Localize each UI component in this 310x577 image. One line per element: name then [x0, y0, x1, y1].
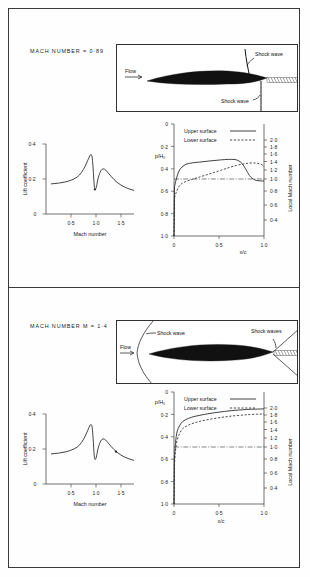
- p-ytick-0.4-supersonic: 0·4: [161, 434, 168, 440]
- p-ytick-0.6-transonic: 0·6: [161, 188, 168, 194]
- lift-yaxis-label-supersonic: Lift coefficient: [22, 432, 28, 465]
- lower-surface-curve-transonic: [174, 163, 264, 236]
- m-tick-1.2-supersonic: 1·2: [270, 435, 277, 441]
- panel-transonic: MACH NUMBER = 0·89: [0, 8, 310, 287]
- trailing-shock-lower-line: [273, 354, 298, 377]
- lift-xtick-1.5-transonic: 1·5: [117, 220, 124, 226]
- shock-waves-lower-label: Shock waves: [251, 328, 282, 334]
- m-tick-0.6-transonic: 0·6: [270, 202, 277, 208]
- legend-transonic: Upper surface Lower surface: [184, 128, 256, 143]
- m-tick-1.6-supersonic: 1·6: [270, 419, 277, 425]
- shock-wave-lower-label: Shock wave: [221, 98, 249, 104]
- lower-surface-curve-supersonic: [174, 414, 264, 504]
- upper-surface-curve-transonic: [174, 159, 264, 236]
- flow-diagram-svg-supersonic: Flow Shock wave Shock waves: [117, 321, 298, 384]
- pressure-right-ticks-supersonic: [264, 408, 267, 488]
- lift-xaxis-label-supersonic: Mach number: [74, 501, 107, 507]
- flow-label-transonic: Flow: [125, 68, 136, 74]
- p-ytick-0.6-supersonic: 0·6: [161, 456, 168, 462]
- legend-upper-label: Upper surface: [184, 128, 217, 134]
- p-xtick-1.0-transonic: 1·0: [260, 242, 267, 248]
- legend-lower-label: Lower surface: [184, 405, 217, 411]
- lift-xtick-1.0-transonic: 1·0: [92, 220, 99, 226]
- lift-marker-transonic: [94, 188, 96, 190]
- pressure-right-ticks-transonic: [264, 140, 267, 220]
- figure-page: MACH NUMBER = 0·89: [0, 0, 310, 577]
- lift-ytick-0.2-supersonic: 0·2: [28, 446, 35, 452]
- p-xtick-0.5-supersonic: 0·5: [215, 510, 222, 516]
- lift-xtick-0.5-transonic: 0·5: [67, 220, 74, 226]
- m-tick-1.2-transonic: 1·2: [270, 167, 277, 173]
- p-ytick-0.4-transonic: 0·4: [161, 166, 168, 172]
- lift-ytick-0.4-supersonic: 0·4: [28, 411, 35, 417]
- p-ytick-0-transonic: 0: [165, 121, 168, 127]
- legend-supersonic: Upper surface Lower surface: [184, 396, 256, 411]
- airfoil-shape: [149, 344, 273, 361]
- p-xtick-0.5-transonic: 0·5: [215, 242, 222, 248]
- m-tick-2.0-supersonic: 2·0: [270, 405, 277, 411]
- legend-upper-label: Upper surface: [184, 396, 217, 402]
- m-tick-1.0-supersonic: 1·0: [270, 444, 277, 450]
- m-tick-0.6-supersonic: 0·6: [270, 470, 277, 476]
- shock-wave-lower-leader: [253, 95, 260, 100]
- shock-wave-upper-label: Shock wave: [157, 330, 185, 336]
- case-title-transonic: MACH NUMBER = 0·89: [30, 48, 104, 54]
- lift-marker-supersonic: [115, 451, 117, 453]
- chart-pressure-distribution-transonic: 0 0·2 0·4 0·6 0·8 1·0 p/H₀ 0 0·5 1·0 x/c…: [146, 116, 306, 256]
- lift-xtick-0.5-supersonic: 0·5: [67, 490, 74, 496]
- m-tick-1.4-transonic: 1·4: [270, 159, 277, 165]
- lift-ytick-0-transonic: 0: [34, 211, 37, 217]
- m-tick-1.4-supersonic: 1·4: [270, 427, 277, 433]
- m-tick-1.6-transonic: 1·6: [270, 151, 277, 157]
- m-axis-label-supersonic: Local Mach number: [287, 438, 293, 486]
- shock-waves-leader: [273, 339, 276, 348]
- lift-xaxis-label-transonic: Mach number: [74, 231, 107, 237]
- lift-yaxis-label-transonic: Lift coefficient: [22, 162, 28, 195]
- legend-lower-label: Lower surface: [184, 137, 217, 143]
- p-xtick-0-supersonic: 0: [173, 510, 176, 516]
- flow-label-supersonic: Flow: [120, 344, 131, 350]
- chart-lift-coefficient-transonic: 0·4 0·2 0 0·5 1·0 1·5 Mach number Lift c…: [18, 136, 138, 244]
- lift-axes-supersonic: [43, 414, 135, 488]
- lift-xtick-1.5-supersonic: 1·5: [117, 490, 124, 496]
- m-axis-label-transonic: Local Mach number: [287, 164, 293, 212]
- p-ytick-0.2-supersonic: 0·2: [161, 412, 168, 418]
- bow-shock-line: [137, 321, 153, 384]
- p-ytick-0.8-supersonic: 0·8: [161, 479, 168, 485]
- p-xtick-0-transonic: 0: [173, 242, 176, 248]
- lift-ytick-0.4-transonic: 0·4: [28, 141, 35, 147]
- lift-curve-supersonic: [51, 425, 134, 461]
- shock-wave-upper-leader: [247, 58, 254, 66]
- chart-pressure-distribution-supersonic: 0 0·2 0·4 0·6 0·8 1·0 p/H₀ 0 0·5 1·0 x/c…: [146, 384, 306, 524]
- p-ytick-1.0-transonic: 1·0: [161, 233, 168, 239]
- m-tick-1.8-supersonic: 1·8: [270, 412, 277, 418]
- m-tick-0.4-transonic: 0·4: [270, 217, 277, 223]
- flow-diagram-svg-transonic: Flow Shock wave Shock wave: [117, 45, 298, 112]
- p-ytick-0.2-transonic: 0·2: [161, 144, 168, 150]
- p-xtick-1.0-supersonic: 1·0: [260, 510, 267, 516]
- p-yaxis-label-transonic: p/H₀: [155, 153, 166, 159]
- shock-wave-upper-leader: [146, 333, 156, 334]
- flow-diagram-transonic: Flow Shock wave Shock wave: [116, 44, 298, 112]
- m-tick-1.0-transonic: 1·0: [270, 176, 277, 182]
- chart-lift-coefficient-supersonic: 0·4 0·2 0 0·5 1·0 1·5 Mach number Lift c…: [18, 406, 138, 514]
- wake-region: [267, 78, 298, 83]
- lift-curve-transonic: [51, 155, 134, 191]
- p-xaxis-label-transonic: x/c: [240, 249, 247, 255]
- lift-axes-transonic: [43, 144, 135, 218]
- upper-surface-curve-supersonic: [174, 409, 264, 504]
- m-tick-0.8-transonic: 0·8: [270, 188, 277, 194]
- lift-ytick-0.2-transonic: 0·2: [28, 176, 35, 182]
- flow-diagram-supersonic: Flow Shock wave Shock waves: [116, 320, 298, 384]
- lift-ytick-0-supersonic: 0: [34, 481, 37, 487]
- case-title-supersonic: MACH NUMBER M = 1·4: [30, 323, 108, 329]
- panel-supersonic: MACH NUMBER M = 1·4: [0, 288, 310, 568]
- p-ytick-0.8-transonic: 0·8: [161, 211, 168, 217]
- m-tick-0.4-supersonic: 0·4: [270, 485, 277, 491]
- m-tick-2.0-transonic: 2·0: [270, 137, 277, 143]
- p-ytick-1.0-supersonic: 1·0: [161, 501, 168, 507]
- p-yaxis-label-supersonic: p/H₀: [155, 399, 166, 405]
- lift-xtick-1.0-supersonic: 1·0: [92, 490, 99, 496]
- wake-region: [274, 351, 298, 356]
- m-tick-1.8-transonic: 1·8: [270, 144, 277, 150]
